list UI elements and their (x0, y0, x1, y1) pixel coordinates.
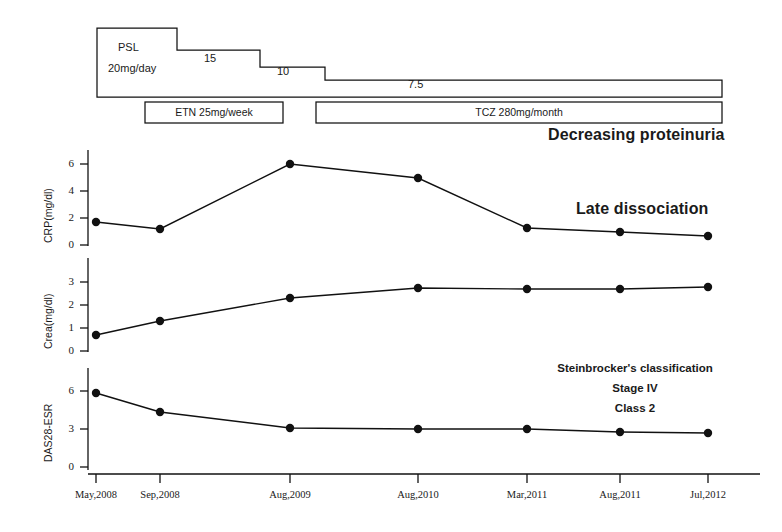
x-tick-label-3: Aug,2010 (378, 489, 458, 500)
crp-ytick-label-4: 4 (58, 184, 74, 196)
crea-ytick-label-0: 0 (58, 344, 74, 356)
x-axis-ticks (96, 474, 708, 483)
crea-ytick-label-3: 3 (58, 275, 74, 287)
das28-axis-title: DAS28-ESR (42, 404, 54, 462)
clinical-course-figure: PSL 20mg/day 15 10 7.5 ETN 25mg/week TCZ… (0, 0, 782, 532)
das28-ytick-label-0: 0 (58, 460, 74, 472)
psl-dose-label-0: 20mg/day (108, 62, 156, 74)
crea-series-line (96, 287, 708, 335)
crp-axis-title: CRP(mg/dl) (42, 188, 54, 243)
x-tick-label-6: Jul,2012 (668, 489, 748, 500)
psl-drug-label: PSL (118, 41, 139, 53)
figure-canvas (0, 0, 782, 532)
decreasing-proteinuria-annotation: Decreasing proteinuria (548, 126, 724, 144)
crea-axis-title: Crea(mg/dl) (42, 294, 54, 349)
late-dissociation-annotation: Late dissociation (576, 200, 708, 218)
psl-dose-label-1: 15 (204, 52, 216, 64)
x-tick-label-2: Aug,2009 (250, 489, 330, 500)
crp-ytick-label-6: 6 (58, 157, 74, 169)
crea-series-markers (92, 283, 712, 339)
das28-ytick-label-3: 3 (58, 422, 74, 434)
steinbrocker-stage-line2: Stage IV (515, 382, 755, 394)
x-tick-label-4: Mar,2011 (487, 489, 567, 500)
psl-dose-label-2: 10 (277, 65, 289, 77)
x-tick-label-1: Sep,2008 (120, 489, 200, 500)
psl-dose-label-3: 7.5 (408, 78, 423, 90)
crea-ytick-label-1: 1 (58, 321, 74, 333)
steinbrocker-class-line3: Class 2 (515, 402, 755, 414)
steinbrocker-classification-line1: Steinbrocker's classification (515, 362, 755, 374)
x-tick-label-5: Aug,2011 (580, 489, 660, 500)
crp-ytick-label-0: 0 (58, 238, 74, 250)
crea-ytick-label-2: 2 (58, 298, 74, 310)
etn-bar-label: ETN 25mg/week (145, 106, 283, 118)
crp-ytick-label-2: 2 (58, 211, 74, 223)
das28-ytick-label-6: 6 (58, 384, 74, 396)
tcz-bar-label: TCZ 280mg/month (316, 106, 722, 118)
